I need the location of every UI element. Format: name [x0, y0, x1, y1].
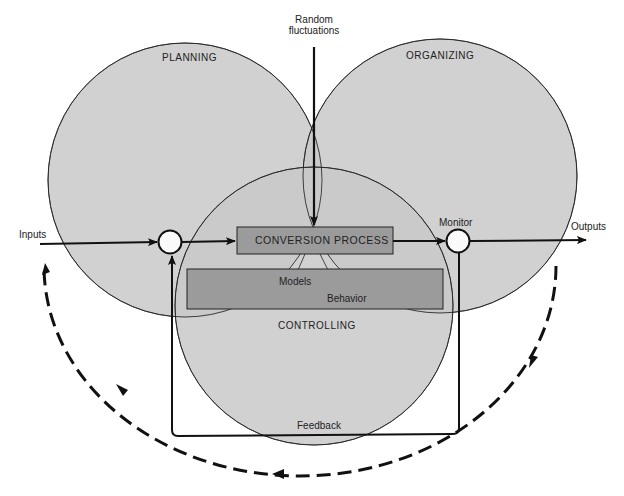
monitor-label: Monitor [439, 217, 472, 228]
dashed-arrow-top-left-icon [42, 263, 50, 275]
conversion-process-label: CONVERSION PROCESS [255, 235, 389, 246]
random-label-line1: Random [280, 14, 348, 25]
planning-label: PLANNING [162, 52, 217, 63]
inputs-label: Inputs [19, 229, 46, 240]
dashed-arrow-bottom-icon [272, 469, 284, 479]
outputs-arrow [470, 240, 586, 241]
models-behavior-box [187, 269, 443, 309]
dashed-arrow-left-icon [116, 384, 128, 396]
organizing-label: ORGANIZING [406, 50, 474, 61]
behavior-label: Behavior [327, 293, 366, 304]
models-label: Models [279, 276, 311, 287]
random-label-line2: fluctuations [280, 25, 348, 36]
feedback-label: Feedback [297, 420, 341, 431]
outputs-label: Outputs [571, 221, 606, 232]
monitor-node [447, 230, 470, 253]
junction-to-conversion-arrow [182, 241, 235, 242]
summing-junction-node [159, 231, 182, 254]
random-fluctuations-label: Random fluctuations [280, 14, 348, 36]
controlling-label: CONTROLLING [278, 320, 356, 331]
